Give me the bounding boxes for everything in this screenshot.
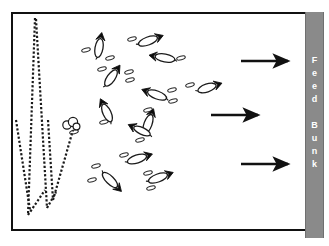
- bunk-letter-u: u: [312, 132, 318, 145]
- cattle-pen-diagram: Feed Bunk: [0, 0, 329, 246]
- pen-frame: [11, 12, 307, 231]
- bunk-letter-k: k: [312, 158, 317, 171]
- bunk-letter-e: e: [312, 67, 317, 80]
- bunk-letter-e: e: [312, 80, 317, 93]
- bunk-letter-d: d: [312, 93, 318, 106]
- bunk-letter-n: n: [312, 145, 318, 158]
- bunk-letter-f: F: [312, 54, 318, 67]
- bunk-letter-b: B: [311, 119, 318, 132]
- feed-bunk-bar: Feed Bunk: [305, 12, 324, 238]
